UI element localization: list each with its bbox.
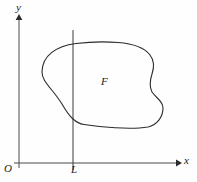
coordinate-diagram-svg xyxy=(0,0,197,182)
figure-canvas: y O L x F xyxy=(0,0,197,182)
x-axis-arrowhead xyxy=(176,160,182,167)
y-axis-arrowhead xyxy=(16,14,23,20)
vertical-line-label-L: L xyxy=(71,164,77,175)
region-label-F: F xyxy=(101,76,108,87)
x-axis-label: x xyxy=(184,155,189,166)
y-axis-label: y xyxy=(16,2,21,13)
origin-label: O xyxy=(4,163,12,174)
